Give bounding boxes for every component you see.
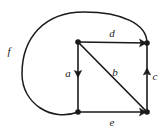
graph-canvas: f a b c d e <box>0 0 166 135</box>
edge-d-path <box>78 42 147 43</box>
edge-label-b: b <box>112 66 118 78</box>
vertex-bottom-right <box>144 109 150 115</box>
vertex-bottom-left <box>75 109 81 115</box>
edge-label-e: e <box>110 116 115 128</box>
edge-label-a: a <box>65 67 71 79</box>
edge-label-d: d <box>109 27 115 39</box>
edge-label-f: f <box>7 45 12 57</box>
edge-f-path <box>22 12 147 115</box>
vertex-top-right <box>144 40 150 46</box>
graph-figure: f a b c d e <box>0 0 166 135</box>
edge-label-c: c <box>153 70 158 82</box>
vertex-top-left <box>75 39 81 45</box>
